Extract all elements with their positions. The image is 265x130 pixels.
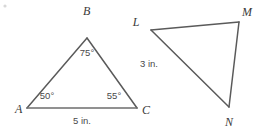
geometry-figure: A B C 50° 75° 55° 3 in. 5 in. L M N — [0, 0, 265, 130]
triangle-lmn-edge-LM — [151, 22, 239, 30]
vertex-label-C: C — [142, 103, 151, 117]
vertex-label-A: A — [14, 102, 23, 116]
vertex-label-N: N — [224, 115, 234, 129]
triangle-lmn-edge-MN — [229, 22, 239, 107]
triangle-lmn-edge-LN — [151, 30, 229, 107]
vertex-label-L: L — [132, 15, 140, 29]
vertex-label-M: M — [241, 5, 253, 19]
figure-canvas: A B C 50° 75° 55° 3 in. 5 in. L M N — [0, 0, 265, 130]
vertex-label-B: B — [83, 4, 91, 18]
scan-speck — [3, 4, 6, 7]
side-measure-BC: 3 in. — [140, 58, 158, 69]
angle-label-B: 75° — [80, 47, 95, 58]
triangle-abc-edge-AB — [27, 38, 87, 108]
angle-label-C: 55° — [107, 90, 122, 101]
side-measure-AC: 5 in. — [73, 115, 91, 126]
angle-label-A: 50° — [40, 90, 55, 101]
